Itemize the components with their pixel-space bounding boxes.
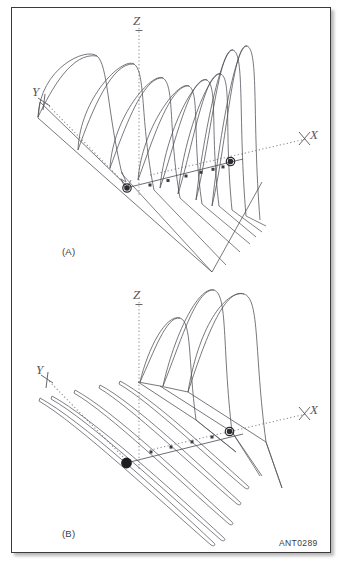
figure-id-label: ANT0289 xyxy=(279,538,318,548)
figure-frame xyxy=(11,7,331,553)
panel-a-caption: (A) xyxy=(62,246,75,257)
figure-root: Z X Y xyxy=(0,0,340,564)
panel-b-caption: (B) xyxy=(62,528,75,539)
